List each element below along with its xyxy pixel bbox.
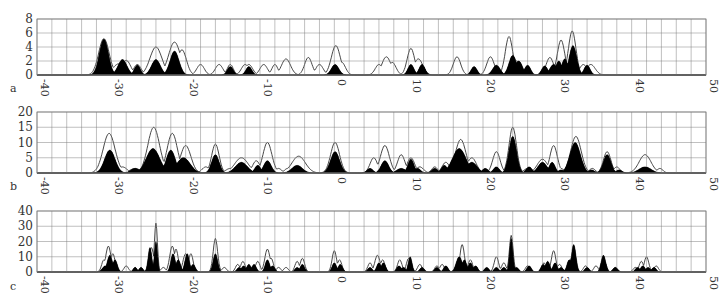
x-tick-label: 50 <box>707 276 720 290</box>
x-tick-label: 0 <box>335 276 348 283</box>
y-tick-label: 15 <box>18 120 33 134</box>
x-tick-label: -10 <box>261 177 274 195</box>
x-tick-label: -20 <box>187 276 200 294</box>
x-tick-label: -10 <box>261 276 274 294</box>
x-tick-label: 0 <box>335 177 348 184</box>
y-tick-label: 20 <box>18 105 33 119</box>
y-tick-label: 40 <box>18 204 33 218</box>
x-tick-label: 40 <box>633 177 646 191</box>
y-tick-label: 10 <box>18 250 33 264</box>
y-tick-label: 5 <box>25 151 33 165</box>
panel-label: a <box>10 82 17 95</box>
x-tick-label: 30 <box>558 177 571 191</box>
x-tick-label: 30 <box>558 79 571 93</box>
y-tick-label: 0 <box>25 166 33 180</box>
x-tick-label: 30 <box>558 276 571 290</box>
x-tick-label: 40 <box>633 276 646 290</box>
x-tick-label: -10 <box>261 79 274 97</box>
three-panel-area-chart: 02468-40-30-20-1001020304050a05101520-40… <box>0 0 727 308</box>
x-tick-label: -20 <box>187 79 200 97</box>
x-tick-label: 10 <box>410 79 423 93</box>
x-tick-label: 0 <box>335 79 348 86</box>
panel-label: b <box>10 180 17 193</box>
y-tick-label: 2 <box>25 54 33 68</box>
x-tick-label: -30 <box>112 79 125 97</box>
chart-figure: 02468-40-30-20-1001020304050a05101520-40… <box>0 0 727 308</box>
y-tick-label: 10 <box>18 136 33 150</box>
y-tick-label: 0 <box>25 265 33 279</box>
x-tick-label: 10 <box>410 276 423 290</box>
x-tick-label: 50 <box>707 177 720 191</box>
x-tick-label: 20 <box>484 177 497 191</box>
panel-label: c <box>10 280 16 293</box>
y-tick-label: 6 <box>25 26 33 40</box>
panel-b: 05101520-40-30-20-1001020304050b <box>10 105 720 195</box>
x-tick-label: 40 <box>633 79 646 93</box>
y-tick-label: 30 <box>18 219 33 233</box>
x-tick-label: -20 <box>187 177 200 195</box>
y-tick-label: 0 <box>25 68 33 82</box>
x-tick-label: 10 <box>410 177 423 191</box>
x-tick-label: 20 <box>484 276 497 290</box>
x-tick-label: -30 <box>112 177 125 195</box>
x-tick-label: 20 <box>484 79 497 93</box>
panel-c: 010203040-40-30-20-1001020304050c <box>10 204 720 294</box>
x-tick-label: -30 <box>112 276 125 294</box>
y-tick-label: 20 <box>18 235 33 249</box>
x-tick-label: -40 <box>38 79 51 97</box>
y-tick-label: 4 <box>25 40 33 54</box>
y-tick-label: 8 <box>25 12 33 26</box>
x-tick-label: -40 <box>38 177 51 195</box>
series-filled-overlay <box>37 39 706 75</box>
panel-a: 02468-40-30-20-1001020304050a <box>10 12 720 97</box>
x-tick-label: 50 <box>707 79 720 93</box>
x-tick-label: -40 <box>38 276 51 294</box>
